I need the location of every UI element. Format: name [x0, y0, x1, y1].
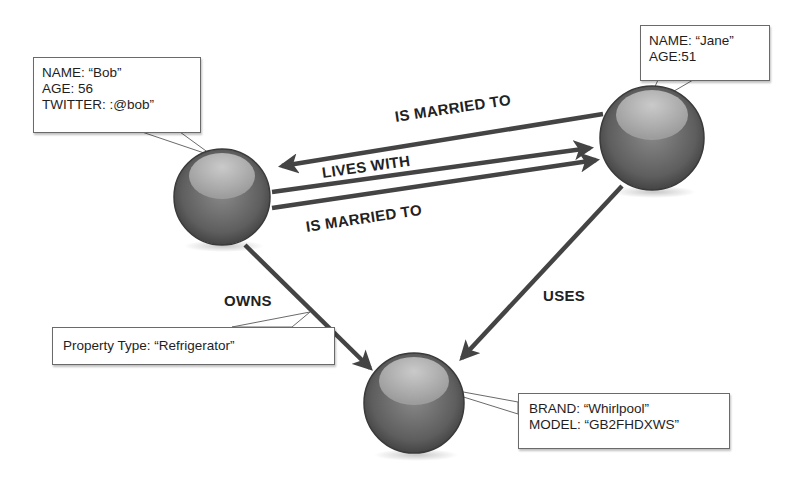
- owns-callout-pointer: [232, 312, 310, 327]
- bob-properties-callout: NAME: “Bob” AGE: 56 TWITTER: :@bob”: [33, 57, 201, 133]
- edge-label-owns: OWNS: [224, 292, 272, 309]
- owns-properties-callout: Property Type: “Refrigerator”: [52, 327, 335, 365]
- jane-name: NAME: “Jane”: [649, 33, 761, 49]
- fridge-model: MODEL: “GB2FHDXWS”: [529, 417, 721, 433]
- edge-jane-uses-fridge[interactable]: [462, 186, 622, 358]
- bob-name: NAME: “Bob”: [42, 65, 192, 81]
- jane-age: AGE:51: [649, 49, 761, 65]
- edge-jane-married-to-bob[interactable]: [282, 114, 603, 166]
- fridge-brand: BRAND: “Whirlpool”: [529, 401, 721, 417]
- owns-property-type: Property Type: “Refrigerator”: [63, 338, 326, 354]
- node-jane[interactable]: [600, 86, 704, 198]
- jane-properties-callout: NAME: “Jane” AGE:51: [640, 25, 770, 81]
- bob-twitter: TWITTER: :@bob”: [42, 97, 192, 113]
- bob-age: AGE: 56: [42, 81, 192, 97]
- edge-label-uses: USES: [543, 287, 585, 304]
- node-refrigerator[interactable]: [364, 353, 464, 461]
- node-bob[interactable]: [174, 149, 270, 252]
- fridge-properties-callout: BRAND: “Whirlpool” MODEL: “GB2FHDXWS”: [518, 393, 730, 449]
